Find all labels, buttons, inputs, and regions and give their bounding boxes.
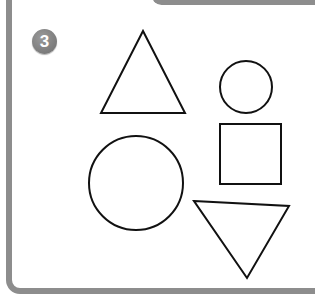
upward-triangle xyxy=(101,31,185,113)
small-circle xyxy=(220,61,272,113)
downward-triangle xyxy=(194,201,289,278)
shapes-canvas xyxy=(0,0,315,301)
square xyxy=(220,124,281,184)
large-circle xyxy=(89,136,183,230)
